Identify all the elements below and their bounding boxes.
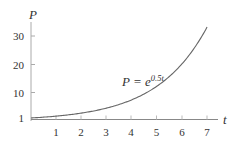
x-tick-labels: 1 2 3 4 5 6 7 [53,126,210,138]
x-tick-label: 4 [128,126,134,138]
equation-base: P = e [121,74,151,89]
equation-exponent: 0.5t [151,73,165,83]
exponential-curve [31,27,207,118]
equation-label: P = e0.5t [121,73,164,89]
x-tick-label: 6 [179,126,185,138]
y-tick-label: 10 [13,87,25,99]
x-tick-label: 3 [103,126,109,138]
y-ticks [31,36,35,93]
x-ticks [56,116,207,120]
y-tick-labels: 30 20 10 1 [13,30,25,124]
y-axis-label: P [28,7,37,22]
y-tick-label: 1 [19,112,25,124]
x-tick-label: 2 [78,126,84,138]
x-tick-label: 1 [53,126,59,138]
exponential-growth-chart: P t 30 20 10 1 1 2 3 4 5 6 7 P = e0.5t [0,0,234,147]
x-tick-label: 5 [154,126,160,138]
y-tick-label: 30 [13,30,25,42]
x-axis-label: t [223,112,227,127]
y-tick-label: 20 [13,59,25,71]
x-tick-label: 7 [204,126,210,138]
